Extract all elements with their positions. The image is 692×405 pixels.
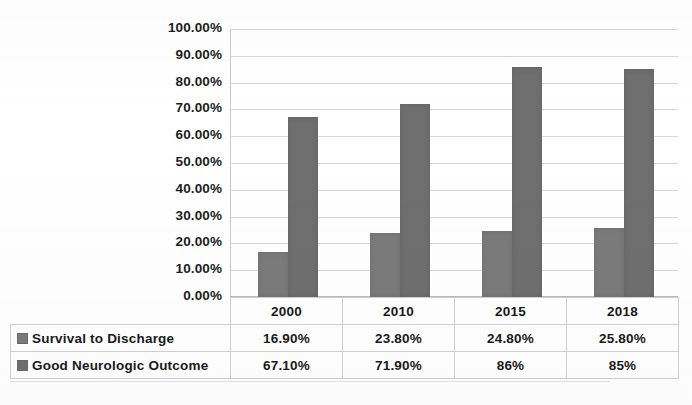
table-corner-cell — [11, 298, 231, 325]
cell-neuro-2000: 67.10% — [231, 352, 343, 379]
legend-label-neuro: Good Neurologic Outcome — [32, 358, 208, 373]
column-header-2010: 2010 — [343, 298, 455, 325]
cell-neuro-2018: 85% — [567, 352, 679, 379]
y-tick-label: 20.00% — [136, 234, 222, 249]
legend-item-neuro: Good Neurologic Outcome — [11, 352, 231, 379]
y-tick-label: 30.00% — [136, 208, 222, 223]
bar-neuro-2018 — [624, 69, 654, 297]
bar-survival-2015 — [482, 231, 512, 297]
y-tick-label: 40.00% — [136, 181, 222, 196]
cell-survival-2015: 24.80% — [455, 325, 567, 352]
table-bottom-edge — [10, 381, 610, 382]
column-header-2018: 2018 — [567, 298, 679, 325]
bar-neuro-2015 — [512, 67, 542, 297]
table-row: Good Neurologic Outcome 67.10% 71.90% 86… — [11, 352, 679, 379]
bar-group-2000 — [258, 29, 318, 297]
cell-survival-2018: 25.80% — [567, 325, 679, 352]
bar-survival-2010 — [370, 233, 400, 297]
legend-item-survival: Survival to Discharge — [11, 325, 231, 352]
cell-neuro-2010: 71.90% — [343, 352, 455, 379]
y-tick-label: 70.00% — [136, 100, 222, 115]
bar-group-2010 — [370, 29, 430, 297]
bar-survival-2018 — [594, 228, 624, 297]
chart-data-table: 2000 2010 2015 2018 Survival to Discharg… — [10, 297, 679, 379]
chart-figure: 100.00% 90.00% 80.00% 70.00% 60.00% 50.0… — [0, 0, 692, 405]
legend-swatch-icon — [17, 360, 28, 371]
y-tick-label: 10.00% — [136, 261, 222, 276]
y-tick-label: 50.00% — [136, 154, 222, 169]
y-tick-label: 100.00% — [136, 20, 222, 35]
table-row: Survival to Discharge 16.90% 23.80% 24.8… — [11, 325, 679, 352]
column-header-2015: 2015 — [455, 298, 567, 325]
bar-group-2015 — [482, 29, 542, 297]
bar-neuro-2010 — [400, 104, 430, 297]
table-row-header: 2000 2010 2015 2018 — [11, 298, 679, 325]
cell-survival-2010: 23.80% — [343, 325, 455, 352]
y-tick-label: 80.00% — [136, 74, 222, 89]
bar-survival-2000 — [258, 252, 288, 297]
cell-survival-2000: 16.90% — [231, 325, 343, 352]
plot-area — [230, 29, 678, 297]
y-tick-label: 60.00% — [136, 127, 222, 142]
legend-label-survival: Survival to Discharge — [32, 331, 174, 346]
column-header-2000: 2000 — [231, 298, 343, 325]
cell-neuro-2015: 86% — [455, 352, 567, 379]
legend-swatch-icon — [17, 333, 28, 344]
bar-neuro-2000 — [288, 117, 318, 297]
bar-group-2018 — [594, 29, 654, 297]
y-tick-label: 90.00% — [136, 47, 222, 62]
y-axis-tick-labels: 100.00% 90.00% 80.00% 70.00% 60.00% 50.0… — [136, 29, 222, 297]
